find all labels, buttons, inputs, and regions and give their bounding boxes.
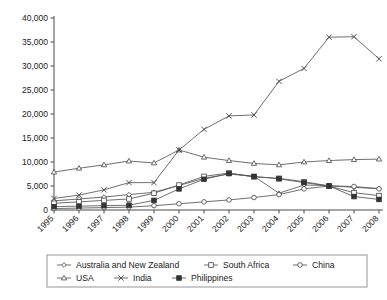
marker-filled-square <box>177 187 182 192</box>
marker-filled-square <box>227 171 232 176</box>
marker-filled-square <box>127 203 132 208</box>
marker-filled-square <box>327 184 332 189</box>
y-tick-label: 15,000 <box>22 133 48 143</box>
marker-square <box>209 263 214 268</box>
y-tick-label: 40,000 <box>22 13 48 23</box>
marker-filled-square <box>352 194 357 199</box>
marker-square <box>127 197 132 202</box>
legend-label: Australia and New Zealand <box>76 260 179 270</box>
y-tick-label: 25,000 <box>22 85 48 95</box>
marker-filled-square <box>177 276 182 281</box>
marker-filled-square <box>252 174 257 179</box>
marker-filled-square <box>277 177 282 182</box>
legend-label: India <box>133 273 152 283</box>
marker-filled-square <box>152 198 157 203</box>
y-tick-label: 10,000 <box>22 157 48 167</box>
marker-circle <box>202 200 207 205</box>
chart-canvas: 05,00010,00015,00020,00025,00030,00035,0… <box>0 0 387 300</box>
marker-circle <box>252 195 257 200</box>
legend-item-australia-and-new-zealand[interactable]: Australia and New Zealand <box>57 260 179 270</box>
marker-circle <box>377 187 382 192</box>
legend-label: USA <box>76 273 94 283</box>
marker-filled-square <box>377 197 382 202</box>
y-tick-label: 30,000 <box>22 61 48 71</box>
y-tick-label: 20,000 <box>22 109 48 119</box>
marker-filled-square <box>302 180 307 185</box>
marker-circle <box>298 263 303 268</box>
marker-circle <box>302 187 307 192</box>
y-tick-label: 35,000 <box>22 37 48 47</box>
marker-circle <box>277 192 282 197</box>
marker-filled-square <box>102 203 107 208</box>
marker-circle <box>227 198 232 203</box>
marker-circle <box>352 184 357 189</box>
line-chart: 05,00010,00015,00020,00025,00030,00035,0… <box>0 0 387 300</box>
marker-circle <box>152 203 157 208</box>
marker-square <box>102 198 107 203</box>
y-tick-label: 5,000 <box>27 181 49 191</box>
legend-label: China <box>312 260 335 270</box>
marker-square <box>77 200 82 205</box>
legend-label: Philippines <box>191 273 233 283</box>
marker-filled-square <box>202 177 207 182</box>
marker-filled-square <box>77 204 82 209</box>
marker-filled-square <box>52 204 57 209</box>
legend-label: South Africa <box>223 260 270 270</box>
marker-square <box>152 191 157 196</box>
marker-circle <box>177 201 182 206</box>
